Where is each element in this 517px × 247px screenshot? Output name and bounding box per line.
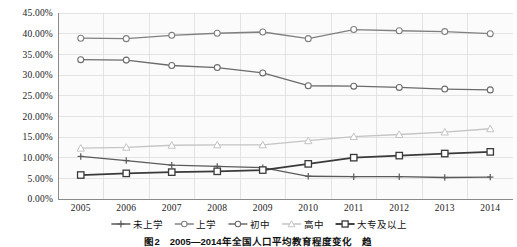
marker-square [169, 169, 175, 175]
legend-item[interactable]: 初中 [228, 219, 270, 230]
marker-circle [123, 36, 129, 42]
marker-square [78, 172, 84, 178]
legend-item[interactable]: 大专及以上 [336, 219, 408, 230]
y-axis-tick-labels: 0.00%5.00%10.00%15.00%20.00%25.00%30.00%… [23, 8, 54, 204]
figure-caption: 图2 2005—2014年全国人口平均教育程度变化 趋 [144, 236, 371, 247]
marker-square [214, 168, 220, 174]
x-axis-tick-label: 2010 [298, 203, 318, 213]
legend-item-label: 初中 [250, 219, 270, 230]
marker-circle [235, 221, 240, 226]
marker-circle [396, 84, 402, 90]
legend-item[interactable]: 未上学 [111, 219, 162, 230]
y-axis-tick-label: 30.00% [23, 70, 54, 80]
marker-square [123, 170, 129, 176]
x-axis-tick-label: 2009 [253, 203, 273, 213]
marker-square [305, 161, 311, 167]
x-axis-tick-label: 2014 [480, 203, 500, 213]
marker-circle [260, 70, 266, 76]
marker-circle [182, 221, 187, 226]
x-axis-tick-label: 2007 [162, 203, 182, 213]
marker-circle [487, 87, 493, 93]
marker-circle [214, 65, 220, 71]
marker-circle [169, 32, 175, 38]
y-axis-tick-label: 35.00% [23, 50, 54, 60]
y-axis-tick-label: 40.00% [23, 29, 54, 39]
y-axis-tick-label: 15.00% [23, 132, 54, 142]
x-axis-tick-label: 2012 [389, 203, 409, 213]
x-axis-tick-label: 2006 [116, 203, 136, 213]
marker-circle [260, 29, 266, 35]
x-axis-tick-label: 2008 [207, 203, 227, 213]
y-axis-tick-label: 25.00% [23, 91, 54, 101]
x-axis-tick-label: 2005 [71, 203, 91, 213]
marker-circle [442, 86, 448, 92]
marker-circle [78, 35, 84, 41]
y-axis-tick-label: 10.00% [23, 153, 54, 163]
marker-circle [123, 57, 129, 63]
legend-item-label: 大专及以上 [357, 219, 407, 230]
marker-circle [169, 63, 175, 69]
marker-circle [442, 29, 448, 35]
marker-square [260, 167, 266, 173]
marker-circle [351, 83, 357, 89]
y-axis-tick-label: 45.00% [23, 8, 54, 18]
marker-plus [117, 221, 124, 228]
marker-square [396, 152, 402, 158]
legend-item[interactable]: 高中 [282, 219, 324, 230]
marker-square [442, 150, 448, 156]
figure-container: 0.00%5.00%10.00%15.00%20.00%25.00%30.00%… [0, 0, 517, 247]
y-axis-tick-label: 0.00% [27, 194, 53, 204]
marker-circle [78, 57, 84, 63]
legend-item-label: 高中 [304, 219, 324, 230]
x-axis-tick-label: 2011 [344, 203, 363, 213]
y-axis-tick-label: 20.00% [23, 112, 54, 122]
marker-circle [351, 27, 357, 33]
marker-circle [487, 31, 493, 37]
chart-legend: 未上学上学初中高中大专及以上 [111, 219, 407, 230]
legend-item-label: 上学 [196, 219, 216, 230]
education-level-line-chart: 0.00%5.00%10.00%15.00%20.00%25.00%30.00%… [0, 0, 517, 247]
marker-square [342, 221, 348, 227]
marker-square [487, 149, 493, 155]
y-axis-tick-label: 5.00% [27, 174, 53, 184]
marker-square [351, 154, 357, 160]
x-axis-tick-labels: 2005200620072008200920102011201220132014 [71, 203, 500, 213]
legend-item[interactable]: 上学 [175, 219, 217, 230]
x-axis-tick-label: 2013 [435, 203, 455, 213]
marker-circle [305, 36, 311, 42]
legend-item-label: 未上学 [133, 219, 163, 230]
marker-circle [305, 83, 311, 89]
marker-circle [396, 28, 402, 34]
marker-circle [214, 30, 220, 36]
